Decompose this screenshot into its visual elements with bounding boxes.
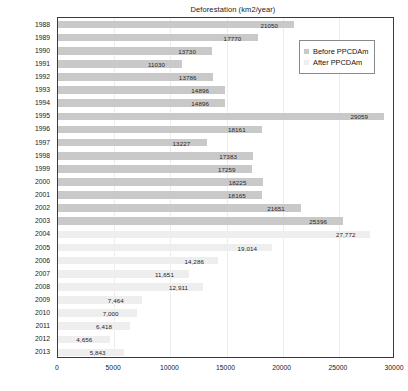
bar-row: 7,000 [58,309,393,317]
x-axis-value-labels: 050001000015000200002500030000 [57,358,394,382]
y-tick-label-1992: 1992 [35,73,50,80]
y-tick-label-1993: 1993 [35,86,50,93]
bar-value-label: 17259 [218,165,236,172]
y-tick-label-2009: 2009 [35,295,50,302]
bar-2002[interactable] [58,204,301,212]
y-tick-label-2000: 2000 [35,177,50,184]
bar-value-label: 13227 [173,139,191,146]
bar-value-label: 19,014 [238,244,258,251]
bar-row: 13227 [58,139,393,147]
bar-2004[interactable] [58,231,370,239]
legend-swatch-before-icon [304,49,309,54]
y-tick-label-2011: 2011 [35,322,50,329]
bar-value-label: 17770 [224,34,242,41]
bar-value-label: 13786 [179,74,197,81]
y-tick-label-1995: 1995 [35,112,50,119]
y-tick-label-2003: 2003 [35,217,50,224]
bar-value-label: 29059 [350,113,368,120]
bar-value-label: 7,000 [103,310,119,317]
chart-title: Deforestation (km2/year) [0,5,408,14]
bar-2009[interactable] [58,296,142,304]
y-tick-label-2005: 2005 [35,243,50,250]
bar-2003[interactable] [58,217,343,225]
bar-value-label: 18165 [228,192,246,199]
bar-value-label: 7,464 [108,296,124,303]
x-tick-label: 15000 [216,364,235,371]
bar-row: 17259 [58,165,393,173]
bar-row: 27,772 [58,231,393,239]
bar-row: 19,014 [58,244,393,252]
bar-row: 14896 [58,99,393,107]
legend-item-after[interactable]: After PPCDAm [304,58,368,67]
x-tick-label: 10000 [160,364,179,371]
y-tick-label-2006: 2006 [35,256,50,263]
legend-label-before: Before PPCDAm [313,47,368,56]
x-tick-label: 30000 [385,364,404,371]
y-tick-label-2008: 2008 [35,282,50,289]
bar-value-label: 21050 [260,21,278,28]
bar-row: 18225 [58,178,393,186]
bar-value-label: 12,911 [169,283,188,290]
y-tick-label-1994: 1994 [35,99,50,106]
bar-row: 6,418 [58,322,393,330]
bar-value-label: 5,843 [90,349,106,356]
bar-1988[interactable] [58,21,294,29]
bar-row: 29059 [58,113,393,121]
deforestation-bar-chart: Deforestation (km2/year) 198819891990199… [0,0,408,391]
y-tick-label-1997: 1997 [35,138,50,145]
y-tick-label-2010: 2010 [35,309,50,316]
x-tick-label: 20000 [272,364,291,371]
bar-row: 18161 [58,126,393,134]
bar-row: 21050 [58,21,393,29]
y-tick-label-1999: 1999 [35,164,50,171]
legend-item-before[interactable]: Before PPCDAm [304,47,368,56]
bar-value-label: 14896 [191,87,209,94]
y-tick-label-2012: 2012 [35,335,50,342]
bar-value-label: 11,651 [155,270,174,277]
x-tick-label: 0 [55,364,59,371]
bar-value-label: 27,772 [336,231,356,238]
bar-row: 5,843 [58,349,393,357]
bar-2010[interactable] [58,309,137,317]
legend-label-after: After PPCDAm [313,58,362,67]
bar-row: 21651 [58,204,393,212]
legend-swatch-after-icon [304,60,309,65]
y-tick-label-2001: 2001 [35,191,50,198]
bar-row: 14896 [58,86,393,94]
y-tick-label-2002: 2002 [35,204,50,211]
y-tick-label-1991: 1991 [35,59,50,66]
bar-value-label: 18225 [229,178,247,185]
y-tick-label-2004: 2004 [35,230,50,237]
y-tick-label-1988: 1988 [35,20,50,27]
bar-row: 25396 [58,217,393,225]
bar-row: 13786 [58,73,393,81]
bar-row: 18165 [58,191,393,199]
bar-value-label: 18161 [228,126,246,133]
x-tick-label: 25000 [328,364,347,371]
y-tick-label-1990: 1990 [35,46,50,53]
y-axis-year-labels: 1988198919901991199219931994199519961997… [0,17,54,358]
bar-row: 7,464 [58,296,393,304]
bar-row: 12,911 [58,283,393,291]
bar-row: 4,656 [58,336,393,344]
bar-value-label: 14,286 [184,257,204,264]
bar-value-label: 11030 [148,60,165,67]
bar-row: 11,651 [58,270,393,278]
bar-2011[interactable] [58,322,130,330]
bar-value-label: 4,656 [76,336,92,343]
bar-row: 17383 [58,152,393,160]
y-tick-label-1996: 1996 [35,125,50,132]
bar-row: 14,286 [58,257,393,265]
y-tick-label-2007: 2007 [35,269,50,276]
bar-value-label: 13730 [178,47,196,54]
bar-1995[interactable] [58,113,384,121]
bar-value-label: 6,418 [96,323,112,330]
y-tick-label-1989: 1989 [35,33,50,40]
bar-value-label: 14896 [191,100,209,107]
bar-value-label: 25396 [309,218,327,225]
chart-legend: Before PPCDAm After PPCDAm [299,40,375,74]
x-tick-label: 5000 [106,364,121,371]
bar-value-label: 21651 [267,205,285,212]
y-tick-label-2013: 2013 [35,348,50,355]
bar-value-label: 17383 [219,152,237,159]
